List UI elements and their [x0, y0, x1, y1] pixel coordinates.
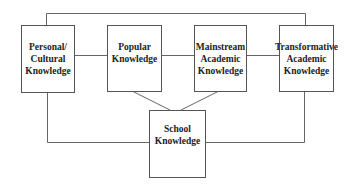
- connector-personal-school-bottom: [48, 92, 150, 143]
- mainstream-academic-knowledge-box: Mainstream Academic Knowledge: [194, 25, 247, 92]
- connector-personal-transformative-top: [47, 14, 306, 26]
- box-label: School Knowledge: [155, 123, 200, 147]
- box-label: Mainstream Academic Knowledge: [196, 41, 245, 77]
- box-label: Popular Knowledge: [112, 41, 157, 65]
- box-label: Personal/ Cultural Knowledge: [25, 41, 70, 77]
- connector-popular-school: [132, 91, 170, 110]
- box-label: Transformative Academic Knowledge: [275, 41, 338, 77]
- school-knowledge-box: School Knowledge: [149, 110, 206, 178]
- popular-knowledge-box: Popular Knowledge: [107, 25, 162, 92]
- connector-mainstream-school: [181, 91, 219, 110]
- personal-cultural-knowledge-box: Personal/ Cultural Knowledge: [21, 25, 75, 93]
- transformative-academic-knowledge-box: Transformative Academic Knowledge: [279, 25, 334, 92]
- connector-transformative-school-bottom: [205, 92, 305, 143]
